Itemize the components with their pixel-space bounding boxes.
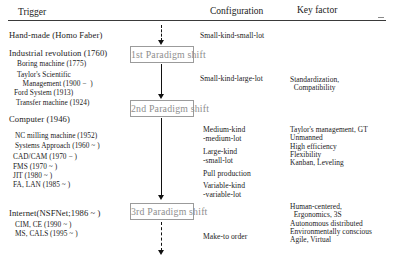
trigger-item-2-4: JIT (1980 ~ ) xyxy=(13,172,52,180)
trigger-item-2-2: CAD/CAM (1970 − ) xyxy=(13,153,77,161)
trigger-item-2-0: NC milling machine (1952) xyxy=(15,132,97,140)
arrowhead-to-shift-2 xyxy=(158,94,164,99)
trigger-item-1-2: Management (1900 − ) xyxy=(17,80,93,88)
column-header-key-factor: Key factor xyxy=(297,5,337,15)
paradigm-shift-box-2: 2nd Paradigm shift xyxy=(130,100,194,117)
trigger-major-3: Internet(NSFNet;1986 ~ ) xyxy=(9,209,101,219)
trigger-item-1-0: Boring machine (1775) xyxy=(17,60,86,68)
paradigm-shift-box-1: 1st Paradigm shift xyxy=(130,46,194,63)
configuration-1: Small-kind-large-lot xyxy=(200,75,263,84)
configuration-3: Large-kind -small-lot xyxy=(203,148,237,165)
column-header-configuration: Configuration xyxy=(210,6,263,16)
connector-dashed-bottom xyxy=(161,222,162,251)
key-factor-2: Human-centered, Ergonomics, 3S Autonomou… xyxy=(290,203,372,244)
connector-dashed-top xyxy=(161,25,162,41)
configuration-4: Pull production xyxy=(203,170,251,179)
key-factor-1: Taylor's management, GT Unmanned High ef… xyxy=(290,126,368,167)
trigger-major-0: Hand-made (Homo Faber) xyxy=(9,31,102,41)
arrowhead-to-shift-3 xyxy=(158,195,164,200)
key-factor-0: Standardization, Compatibility xyxy=(290,76,339,93)
connector-solid-1 xyxy=(161,64,162,95)
trigger-item-3-0: CIM, CE (1990 ~ ) xyxy=(15,221,71,229)
configuration-0: Small-kind-small-lot xyxy=(200,32,264,41)
configuration-6: Make-to order xyxy=(203,233,247,242)
arrowhead-future xyxy=(158,250,164,255)
trigger-item-3-1: MS, CALS (1995 ~ ) xyxy=(15,230,78,238)
paradigm-shift-box-3: 3rd Paradigm shift xyxy=(130,203,194,220)
trigger-major-1: Industrial revolution (1760) xyxy=(9,49,107,59)
configuration-2: Medium-kind -medium-lot xyxy=(203,126,245,143)
trigger-item-2-3: FMS (1970 ~ ) xyxy=(13,163,57,171)
trigger-major-2: Computer (1946) xyxy=(9,115,70,125)
diagram-canvas: Trigger Configuration Key factor Hand-ma… xyxy=(0,0,394,273)
trigger-item-2-5: FA, LAN (1985 ~ ) xyxy=(13,181,70,189)
trigger-item-1-3: Ford System (1913) xyxy=(14,89,73,97)
configuration-5: Variable-kind -variable-lot xyxy=(203,182,245,199)
arrowhead-to-shift-1 xyxy=(158,40,164,45)
header-divider-rule-tail xyxy=(378,17,384,18)
header-divider-rule xyxy=(8,20,386,21)
trigger-item-2-1: Systems Approach (1960 ~ ) xyxy=(15,142,100,150)
connector-solid-2 xyxy=(161,118,162,196)
column-header-trigger: Trigger xyxy=(18,7,46,17)
trigger-item-1-4: Transfer machine (1924) xyxy=(16,99,89,107)
trigger-item-1-1: Taylor's Scientific xyxy=(17,71,71,79)
